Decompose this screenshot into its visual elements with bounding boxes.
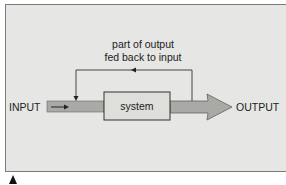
input-label: INPUT — [9, 101, 41, 113]
caption-line-2: fed back to input — [88, 51, 198, 64]
feedback-arrow-icon — [131, 68, 136, 73]
triangle-marker-icon — [9, 175, 17, 184]
feedback-caption: part of output fed back to input — [88, 38, 198, 64]
caption-line-1: part of output — [88, 38, 198, 51]
output-label: OUTPUT — [236, 101, 279, 113]
output-arrow-icon — [170, 94, 232, 120]
feedback-arrowhead-icon — [74, 96, 79, 101]
system-label: system — [104, 100, 170, 112]
feedback-diagram — [0, 0, 286, 185]
